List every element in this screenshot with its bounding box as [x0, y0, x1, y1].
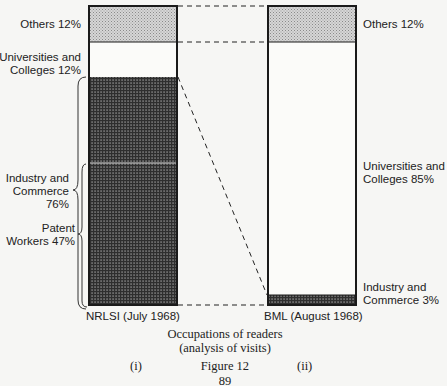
segment-universities-right: [268, 42, 356, 295]
industry-brace: [73, 77, 86, 309]
bar-caption-nrlsi: NRLSI (July 1968): [86, 310, 180, 323]
patent-brace: [78, 164, 87, 307]
page-number: 89: [200, 375, 250, 386]
label-universities-right-2: Colleges 85%: [363, 173, 434, 186]
label-industry-left-1: Industry and: [6, 172, 69, 185]
panel-label-i: (i): [130, 360, 142, 373]
label-universities-right-1: Universities and: [363, 160, 445, 173]
caption-subtitle: (analysis of visits): [150, 342, 300, 355]
segment-universities-left: [89, 42, 177, 77]
bar-nrlsi: [89, 6, 177, 305]
segment-others-left: [89, 6, 177, 42]
label-universities-left-1: Universities and: [0, 51, 81, 64]
label-industry-left-3: 76%: [46, 198, 69, 211]
bar-bml: [268, 6, 356, 305]
label-universities-left-2: Colleges 12%: [10, 64, 81, 77]
label-others-right: Others 12%: [363, 18, 424, 31]
label-others-left: Others 12%: [20, 18, 81, 31]
label-patent-2: Workers 47%: [6, 235, 75, 248]
panel-label-ii: (ii): [297, 360, 312, 373]
caption-title: Occupations of readers: [150, 328, 300, 341]
segment-industry-left: [89, 77, 177, 305]
label-industry-left-2: Commerce: [13, 185, 69, 198]
connector-lines: [178, 6, 267, 305]
segment-others-right: [268, 6, 356, 42]
label-industry-right-1: Industry and: [363, 281, 426, 294]
figure-label: Figure 12: [180, 360, 270, 373]
label-industry-right-2: Commerce 3%: [363, 294, 439, 307]
bar-caption-bml: BML (August 1968): [264, 310, 363, 323]
label-patent-1: Patent: [42, 222, 75, 235]
segment-industry-right: [268, 295, 356, 305]
